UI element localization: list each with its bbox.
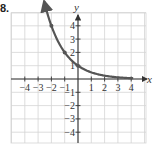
svg-text:−2: −2: [46, 82, 57, 93]
exponential-graph: 8. −4−3−2−112344321−1−2−3−4 x y: [0, 0, 155, 148]
svg-text:3: 3: [115, 82, 120, 93]
svg-text:−2: −2: [64, 100, 75, 111]
x-axis-label: x: [146, 73, 152, 85]
svg-text:4: 4: [70, 20, 75, 31]
y-axis-label: y: [73, 1, 79, 13]
svg-text:2: 2: [70, 47, 75, 58]
svg-text:−4: −4: [19, 82, 30, 93]
svg-text:−1: −1: [64, 87, 75, 98]
svg-text:−3: −3: [33, 82, 44, 93]
svg-text:−3: −3: [64, 113, 75, 124]
svg-text:2: 2: [102, 82, 107, 93]
plot-area: −4−3−2−112344321−1−2−3−4 x y: [0, 0, 155, 148]
svg-text:4: 4: [129, 82, 134, 93]
svg-text:−4: −4: [64, 127, 75, 138]
svg-text:1: 1: [89, 82, 94, 93]
svg-text:3: 3: [70, 34, 75, 45]
